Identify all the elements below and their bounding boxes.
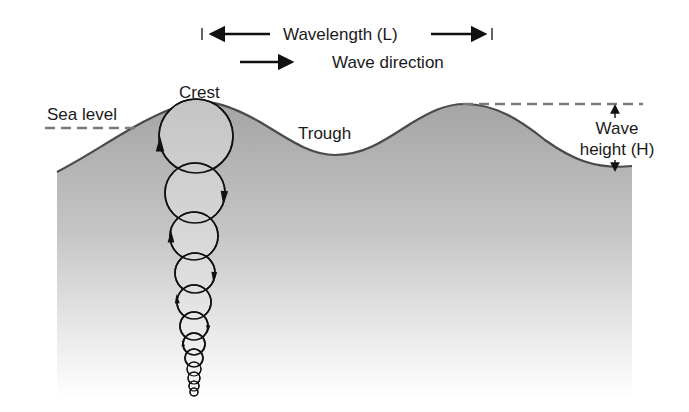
wave-height-label-line2: height (H) [580, 140, 655, 159]
sea-level-label: Sea level [47, 105, 117, 124]
water-body [57, 102, 632, 400]
wavelength-label: Wavelength (L) [283, 25, 398, 44]
crest-label: Crest [179, 83, 220, 102]
wave-direction-indicator: Wave direction [240, 53, 444, 72]
trough-label: Trough [298, 124, 351, 143]
wavelength-indicator: Wavelength (L) [202, 25, 492, 44]
wave-height-label-line1: Wave [596, 119, 639, 138]
wave-direction-label: Wave direction [332, 53, 444, 72]
wave-height-indicator: Wave height (H) [580, 106, 655, 170]
wave-diagram: Wavelength (L) Wave direction Crest Sea … [0, 0, 689, 412]
